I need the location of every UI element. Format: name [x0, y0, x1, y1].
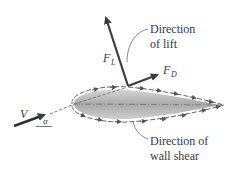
svg-text:F: F [162, 63, 171, 77]
svg-text:D: D [170, 70, 177, 79]
drag-force-label: F D [162, 63, 177, 79]
lift-label-line1: Direction [150, 22, 195, 36]
shear-leader-line [133, 122, 148, 139]
freestream-line [50, 104, 74, 114]
airfoil-diagram: Direction of lift Direction of wall shea… [0, 0, 233, 170]
svg-text:F: F [102, 51, 111, 65]
velocity-arrow [14, 115, 44, 126]
drag-arrow [128, 75, 157, 86]
lift-label-line2: of lift [150, 37, 178, 51]
shear-label-line2: wall shear [150, 149, 199, 163]
airfoil [74, 90, 220, 119]
angle-label: α [43, 116, 48, 126]
velocity-label: V [20, 107, 29, 121]
svg-text:L: L [110, 58, 116, 67]
lift-leader-line [127, 29, 148, 62]
shear-label-line1: Direction of [150, 134, 208, 148]
lift-force-label: F L [102, 51, 116, 67]
